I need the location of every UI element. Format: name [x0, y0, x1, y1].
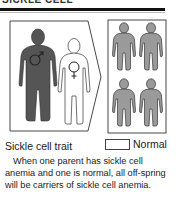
caption-paragraph: When one parent has sickle cell anemia a… [5, 155, 170, 192]
legend-normal-swatch [105, 139, 130, 150]
caption-text: When one parent has sickle cell anemia a… [5, 156, 166, 190]
legend-normal-label: Normal [133, 138, 167, 150]
legend-trait-label: Sickle cell trait [5, 140, 72, 152]
inheritance-diagram [0, 0, 177, 136]
